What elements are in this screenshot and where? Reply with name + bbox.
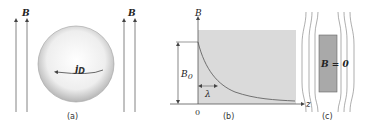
interior-field-label: B = 0 <box>320 59 349 69</box>
y-axis-label: B <box>194 8 202 18</box>
field-line <box>315 12 318 112</box>
amplitude-label: B0 <box>180 69 193 81</box>
panel-a: B jD B (a) <box>16 8 136 121</box>
field-label-right: B <box>127 8 136 18</box>
origin-label: 0 <box>195 108 200 117</box>
field-line <box>309 12 312 112</box>
caption-c: (c) <box>322 112 333 121</box>
field-label-left: B <box>21 8 30 18</box>
penetration-depth-label: λ <box>204 89 211 99</box>
superconductor-region <box>198 30 296 104</box>
field-line <box>350 12 354 112</box>
caption-a: (a) <box>67 112 78 121</box>
field-line <box>302 12 306 112</box>
caption-b: (b) <box>223 112 234 121</box>
superconductor-figure: B jD B (a) B z 0 B0 λ (b) B = 0 <box>0 0 367 130</box>
panel-b: B z 0 B0 λ (b) <box>170 8 311 121</box>
